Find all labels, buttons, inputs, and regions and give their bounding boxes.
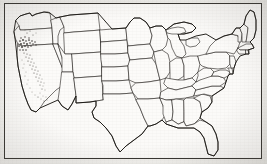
figure-container: Outline map of the contiguous United Sta… — [0, 0, 267, 164]
state-SD — [101, 40, 128, 54]
us-map-svg — [0, 0, 267, 164]
state-PA — [198, 52, 230, 69]
state-KS — [102, 66, 129, 81]
state-IN — [170, 58, 184, 80]
state-IA — [128, 44, 154, 60]
state-WY — [64, 30, 101, 54]
us-map — [0, 0, 267, 164]
state-OH — [182, 56, 200, 80]
state-OK — [102, 80, 133, 94]
state-NM — [74, 76, 103, 103]
state-FL — [166, 120, 218, 156]
state-NE — [101, 53, 130, 67]
state-CO — [72, 52, 102, 78]
state-ND — [100, 28, 127, 42]
state-AL — [172, 99, 184, 124]
state-boundaries — [14, 10, 256, 156]
state-MO — [128, 58, 160, 83]
